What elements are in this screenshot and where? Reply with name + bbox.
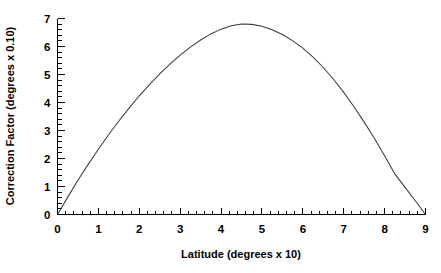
- x-tick-label: 1: [95, 223, 102, 235]
- y-tick-label: 7: [44, 13, 50, 25]
- chart-plot-area: 012345678901234567 Latitude (degrees x 1…: [0, 0, 441, 273]
- x-tick-label: 2: [136, 223, 142, 235]
- y-tick-label: 6: [44, 41, 50, 53]
- data-series-group: [58, 24, 426, 214]
- x-tick-label: 5: [259, 223, 266, 235]
- y-tick-label: 0: [44, 209, 50, 221]
- x-tick-label: 7: [341, 223, 347, 235]
- x-tick-label: 6: [300, 223, 306, 235]
- y-axis-title: Correction Factor (degrees x 0.10): [4, 26, 16, 205]
- x-tick-label: 8: [381, 223, 388, 235]
- y-tick-label: 2: [44, 153, 50, 165]
- axes-group: [58, 19, 426, 215]
- y-tick-label: 5: [44, 69, 51, 81]
- y-tick-label: 3: [44, 125, 50, 137]
- x-axis-title: Latitude (degrees x 10): [181, 248, 301, 260]
- y-tick-label: 4: [44, 97, 51, 109]
- x-tick-label: 3: [177, 223, 183, 235]
- x-tick-label: 4: [218, 223, 225, 235]
- x-tick-label: 9: [422, 223, 428, 235]
- x-tick-label: 0: [54, 223, 60, 235]
- data-series-curve: [58, 24, 426, 214]
- ticks-group: [58, 19, 426, 215]
- y-tick-label: 1: [44, 181, 51, 193]
- chart-figure: 012345678901234567 Latitude (degrees x 1…: [0, 0, 441, 273]
- tick-labels-group: 012345678901234567: [44, 13, 429, 235]
